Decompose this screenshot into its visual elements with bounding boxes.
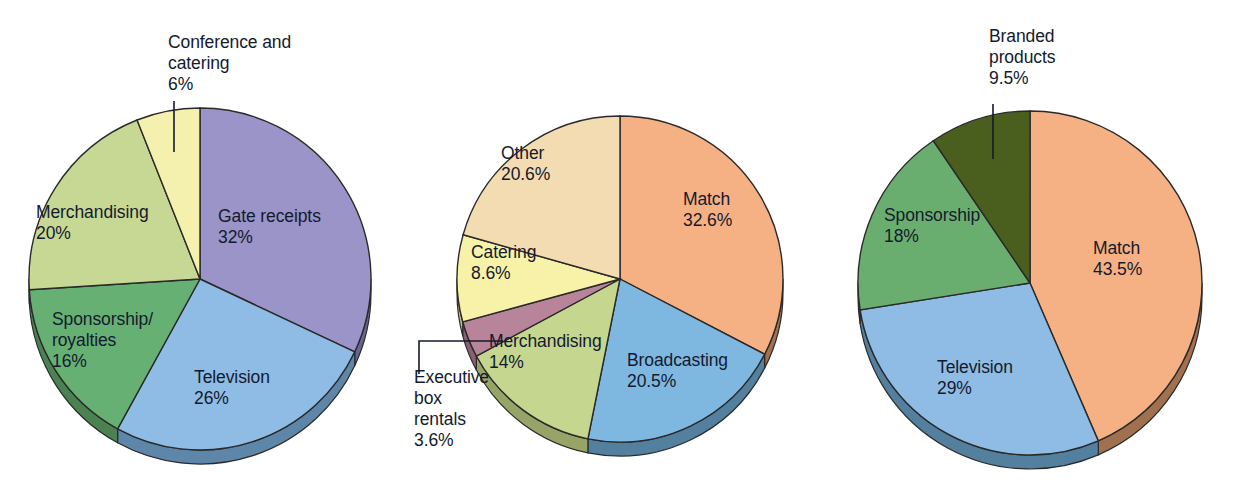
pie-charts-figure: Gate receipts32%Television26%Sponsorship… xyxy=(0,0,1239,493)
pie-middle-label-match: Match32.6% xyxy=(683,189,732,230)
pie-middle-label-other: Other20.6% xyxy=(501,143,550,184)
pie-left: Gate receipts32%Television26%Sponsorship… xyxy=(29,32,371,464)
pie-right-label-branded-products: Brandedproducts9.5% xyxy=(989,26,1056,88)
pie-middle: Match32.6%Broadcasting20.5%Merchandising… xyxy=(414,116,783,456)
pie-middle-label-executive-box-rentals: Executiveboxrentals3.6% xyxy=(414,367,489,450)
pie-right: Match43.5%Television29%Sponsorship18%Bra… xyxy=(858,26,1202,469)
charts-canvas: Gate receipts32%Television26%Sponsorship… xyxy=(0,0,1239,493)
pie-right-label-match: Match43.5% xyxy=(1093,238,1142,279)
pie-left-label-conference-and-catering: Conference andcatering6% xyxy=(168,32,291,94)
